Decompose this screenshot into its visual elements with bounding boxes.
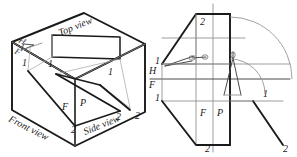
top-view-projection-rect [52, 35, 120, 59]
label-left-f: F [12, 45, 23, 57]
right-point-label-front-1: 1 [155, 92, 160, 103]
right-point-label-top-2: 2 [200, 16, 205, 27]
compass-v-leg-b [233, 58, 241, 95]
point-label-front-2: 2 [71, 124, 76, 135]
point-label-side-1: 1 [108, 66, 113, 77]
right-point-label-front-2: 2 [205, 143, 210, 154]
right-point-label-side-1: 1 [263, 88, 268, 99]
line-connector-top-side [56, 74, 100, 85]
point-label-top-1: 1 [48, 58, 53, 69]
unfolded-orthographic-views: H F F P 2 1 1 1 2 2 [148, 4, 292, 154]
technical-drawing-figure: .hv { stroke:#1a1a1a; stroke-width:1.9; … [0, 0, 297, 157]
outer-revolution-arc [230, 17, 292, 79]
point-label-front-1: 1 [22, 57, 27, 68]
drawing-canvas: .hv { stroke:#1a1a1a; stroke-width:1.9; … [0, 0, 297, 157]
label-bottom-f: F [61, 101, 69, 112]
side-view-line-1-2 [100, 85, 130, 110]
top-plane-construction [52, 35, 120, 59]
hf-arrowhead [22, 43, 42, 50]
right-point-label-side-2: 2 [283, 143, 288, 154]
side-view-line-1-2-right [253, 101, 283, 145]
compass-h-shaft [192, 57, 206, 58]
front-view-line-1-2 [28, 71, 75, 126]
aux-proj-4 [120, 59, 130, 108]
label-right-f: F [148, 79, 156, 90]
right-point-label-top-1: 1 [155, 55, 160, 66]
compass-vertical-icon [224, 52, 241, 95]
pictorial-glass-box: Top view Front view Side view H F F P 1 … [6, 13, 145, 146]
label-right-center-p: P [216, 107, 223, 118]
label-right-center-f: F [199, 107, 207, 118]
point-label-side-2: 2 [135, 110, 140, 121]
label-bottom-p: P [79, 97, 86, 108]
point-label-top-2: 2 [116, 111, 121, 122]
label-right-h: H [148, 65, 157, 76]
compass-v-leg-a [224, 58, 233, 95]
label-top-view: Top view [57, 14, 94, 38]
